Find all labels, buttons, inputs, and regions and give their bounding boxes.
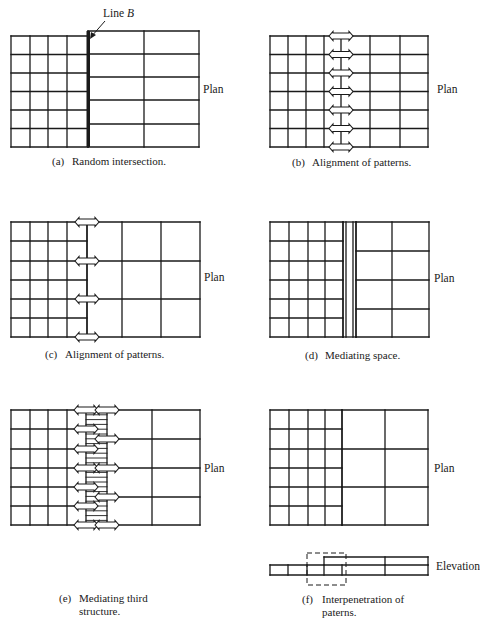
plan-label-e: Plan bbox=[204, 462, 224, 475]
double-arrow-icon bbox=[329, 69, 353, 78]
caption-b-text: Alignment of patterns. bbox=[312, 156, 411, 168]
double-arrow-icon bbox=[75, 333, 99, 342]
double-arrow-icon bbox=[75, 295, 99, 304]
plan-label-d: Plan bbox=[434, 272, 454, 285]
caption-e-tag: (e) bbox=[59, 592, 79, 605]
double-arrow-icon bbox=[95, 435, 119, 444]
pattern-diagrams bbox=[0, 0, 480, 628]
caption-c-text: Alignment of patterns. bbox=[65, 348, 164, 360]
caption-c: (c)Alignment of patterns. bbox=[45, 348, 164, 361]
double-arrow-icon bbox=[95, 521, 119, 530]
double-arrow-icon bbox=[329, 143, 353, 152]
caption-b: (b)Alignment of patterns. bbox=[292, 156, 411, 169]
caption-e-line1: Mediating third bbox=[79, 592, 148, 604]
plan-label-f: Plan bbox=[434, 462, 454, 475]
caption-f-tag: (f) bbox=[302, 593, 322, 606]
caption-e-line2: structure. bbox=[59, 605, 148, 618]
panel-f-interpenetration-drawing bbox=[270, 410, 428, 585]
caption-d-text: Mediating space. bbox=[325, 349, 400, 361]
double-arrow-icon bbox=[74, 425, 98, 434]
plan-label-c: Plan bbox=[204, 271, 224, 284]
panel-e-mediating-structure-drawing bbox=[11, 406, 200, 530]
double-arrow-icon bbox=[95, 406, 119, 415]
figure-canvas: Line B Plan Plan Plan Plan Plan Plan Ele… bbox=[0, 0, 480, 628]
double-arrow-icon bbox=[329, 106, 353, 115]
double-arrow-icon bbox=[75, 218, 99, 227]
caption-f: (f)Interpenetration of paterns. bbox=[302, 593, 404, 619]
caption-f-line1: Interpenetration of bbox=[322, 593, 404, 605]
double-arrow-icon bbox=[329, 32, 353, 41]
panel-c-alignment-drawing bbox=[11, 218, 200, 342]
caption-d: (d)Mediating space. bbox=[305, 349, 400, 362]
line-b-heavy-line bbox=[87, 31, 91, 147]
double-arrow-icon bbox=[75, 257, 99, 266]
plan-label-b: Plan bbox=[437, 83, 457, 96]
double-arrow-icon bbox=[329, 124, 353, 133]
double-arrow-icon bbox=[74, 483, 98, 492]
double-arrow-icon bbox=[74, 502, 98, 511]
caption-d-tag: (d) bbox=[305, 349, 325, 362]
caption-f-line2: paterns. bbox=[302, 606, 404, 619]
caption-a: (a)Random intersection. bbox=[52, 155, 166, 168]
double-arrow-icon bbox=[95, 464, 119, 473]
panel-d-mediating-space-drawing bbox=[270, 222, 429, 337]
line-b-leader-arrow-icon bbox=[90, 21, 105, 39]
caption-e: (e)Mediating third structure. bbox=[59, 592, 148, 618]
panel-b-alignment-drawing bbox=[270, 32, 428, 152]
panel-a-random-intersection-drawing bbox=[11, 31, 199, 147]
double-arrow-icon bbox=[95, 493, 119, 502]
double-arrow-icon bbox=[74, 445, 98, 454]
line-b-text: Line bbox=[103, 7, 124, 19]
caption-a-text: Random intersection. bbox=[72, 155, 166, 167]
interpenetration-dashed-box bbox=[307, 553, 346, 585]
caption-c-tag: (c) bbox=[45, 348, 65, 361]
elevation-label-f: Elevation bbox=[436, 560, 480, 573]
double-arrow-icon bbox=[329, 50, 353, 59]
plan-label-a: Plan bbox=[203, 83, 223, 96]
caption-b-tag: (b) bbox=[292, 156, 312, 169]
caption-a-tag: (a) bbox=[52, 155, 72, 168]
double-arrow-icon bbox=[329, 87, 353, 96]
line-b-annotation: Line B bbox=[103, 7, 134, 19]
line-b-variable: B bbox=[127, 7, 134, 19]
